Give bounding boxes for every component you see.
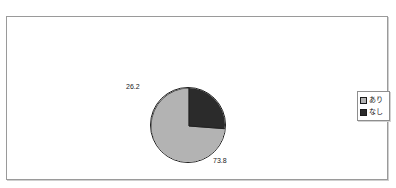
- legend-swatch-ari-icon: [360, 97, 367, 104]
- legend-label-ari: あり: [369, 96, 383, 104]
- pie-label-nashi: 26.2: [126, 82, 140, 91]
- pie-circle: [150, 87, 226, 163]
- legend-swatch-nashi-icon: [360, 109, 367, 116]
- pie-label-ari: 73.8: [213, 156, 227, 165]
- legend-item-ari: あり: [360, 94, 387, 106]
- chart-plot-frame: 26.2 73.8: [6, 16, 388, 180]
- chart-legend: あり なし: [357, 91, 390, 121]
- pie-chart-screenshot: 26.2 73.8 あり なし: [0, 0, 396, 188]
- chart-title-clipped: [86, 0, 316, 3]
- legend-label-nashi: なし: [369, 108, 383, 116]
- chart-title-strip: [0, 0, 396, 14]
- pie-slice-nashi: [189, 88, 226, 129]
- legend-item-nashi: なし: [360, 106, 387, 118]
- pie-chart-graphic: [150, 87, 226, 163]
